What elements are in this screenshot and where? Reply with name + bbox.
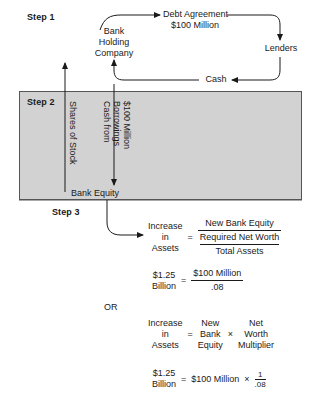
bhc-line-1: Bank bbox=[72, 26, 156, 37]
formula-4-frac-numerator: 1 bbox=[255, 370, 266, 379]
bhc-line-2: Holding bbox=[72, 37, 156, 48]
formula-3-lhs: Increase in Assets bbox=[148, 318, 183, 351]
cash-from-borrowings-label: Cash from bbox=[102, 101, 112, 143]
formula-3-mid-line-2: Bank bbox=[198, 329, 223, 340]
formula-3-rhs-line-1: Net bbox=[238, 318, 274, 329]
cash-from-borrowings-label-3: $100 Million bbox=[122, 101, 132, 149]
cash-node: Cash bbox=[201, 74, 231, 85]
formula-3-rhs: Net Worth Multiplier bbox=[238, 318, 274, 351]
formula-1-numerator: New Bank Equity bbox=[198, 218, 281, 229]
formula-3-lhs-line-2: in bbox=[148, 329, 183, 340]
formula-3-mid: New Bank Equity bbox=[198, 318, 223, 351]
formula-2-numerator: $100 Million bbox=[191, 268, 243, 279]
formula-2-bar bbox=[191, 280, 243, 281]
formula-3-lhs-line-3: Assets bbox=[148, 340, 183, 351]
lenders-node: Lenders bbox=[258, 43, 304, 54]
bhc-line-3: Company bbox=[72, 48, 156, 59]
shares-of-stock-label: Shares of Stock bbox=[68, 101, 78, 165]
arrow-debt-to-lenders bbox=[227, 15, 280, 40]
formula-1-main-bar bbox=[198, 230, 281, 231]
bank-holding-company-node: Bank Holding Company bbox=[72, 26, 156, 59]
formula-4-lhs-line-1: $1.25 bbox=[152, 368, 176, 379]
step-3-label: Step 3 bbox=[52, 207, 80, 217]
formula-1: Increase in Assets = New Bank Equity Req… bbox=[148, 218, 281, 257]
formula-2: $1.25 Billion = $100 Million .08 bbox=[152, 268, 243, 293]
step-1-label: Step 1 bbox=[27, 12, 55, 22]
formula-4-fraction: 1 .08 bbox=[255, 370, 266, 389]
formula-2-equals: = bbox=[176, 275, 191, 286]
formula-1-sub-denominator: Total Assets bbox=[200, 246, 279, 257]
formula-2-lhs-line-1: $1.25 bbox=[152, 270, 176, 281]
or-label: OR bbox=[104, 302, 118, 313]
formula-4: $1.25 Billion = $100 Million × 1 .08 bbox=[152, 368, 266, 390]
bank-equity-label: Bank Equity bbox=[71, 188, 119, 199]
formula-3: Increase in Assets = New Bank Equity × N… bbox=[148, 318, 274, 351]
cash-borrowings-line-2: Borrowings bbox=[112, 101, 122, 146]
debt-agreement-node: Debt Agreement $100 Million bbox=[163, 9, 227, 31]
formula-3-mid-line-3: Equity bbox=[198, 340, 223, 351]
formula-2-denominator: .08 bbox=[191, 282, 243, 293]
formula-3-rhs-line-3: Multiplier bbox=[238, 340, 274, 351]
formula-1-lhs-line-3: Assets bbox=[148, 243, 183, 254]
step-2-label: Step 2 bbox=[27, 97, 55, 107]
formula-1-fraction: New Bank Equity Required Net Worth Total… bbox=[198, 218, 281, 257]
formula-1-lhs-line-1: Increase bbox=[148, 221, 183, 232]
formula-3-mid-line-1: New bbox=[198, 318, 223, 329]
formula-1-sub-numerator: Required Net Worth bbox=[200, 232, 279, 243]
formula-3-times: × bbox=[223, 329, 238, 340]
formula-2-fraction: $100 Million .08 bbox=[191, 268, 243, 293]
formula-4-value: $100 Million bbox=[191, 374, 239, 385]
formula-1-lhs: Increase in Assets bbox=[148, 221, 183, 254]
formula-4-equals: = bbox=[176, 374, 191, 385]
formula-2-lhs: $1.25 Billion bbox=[152, 270, 176, 292]
arrow-bank-equity-to-increase bbox=[107, 200, 143, 235]
formula-4-times: × bbox=[239, 374, 254, 385]
formula-1-sub-bar bbox=[200, 244, 279, 245]
formula-4-lhs: $1.25 Billion bbox=[152, 368, 176, 390]
debt-agreement-line-2: $100 Million bbox=[163, 20, 227, 31]
formula-4-lhs-line-2: Billion bbox=[152, 379, 176, 390]
cash-from-borrowings-label-2: Borrowings bbox=[112, 101, 122, 146]
formula-1-equals: = bbox=[183, 232, 198, 243]
formula-3-lhs-line-1: Increase bbox=[148, 318, 183, 329]
debt-agreement-line-1: Debt Agreement bbox=[163, 9, 227, 20]
cash-borrowings-line-3: $100 Million bbox=[122, 101, 132, 149]
formula-4-frac-denominator: .08 bbox=[255, 380, 266, 389]
formula-2-lhs-line-2: Billion bbox=[152, 281, 176, 292]
cash-borrowings-line-1: Cash from bbox=[102, 101, 112, 143]
arrow-lenders-to-cash bbox=[232, 57, 280, 80]
arrow-cash-to-bhc bbox=[114, 60, 199, 80]
formula-1-denominator: Required Net Worth Total Assets bbox=[198, 232, 281, 257]
formula-3-rhs-line-2: Worth bbox=[238, 329, 274, 340]
formula-1-lhs-line-2: in bbox=[148, 232, 183, 243]
formula-3-equals: = bbox=[183, 329, 198, 340]
